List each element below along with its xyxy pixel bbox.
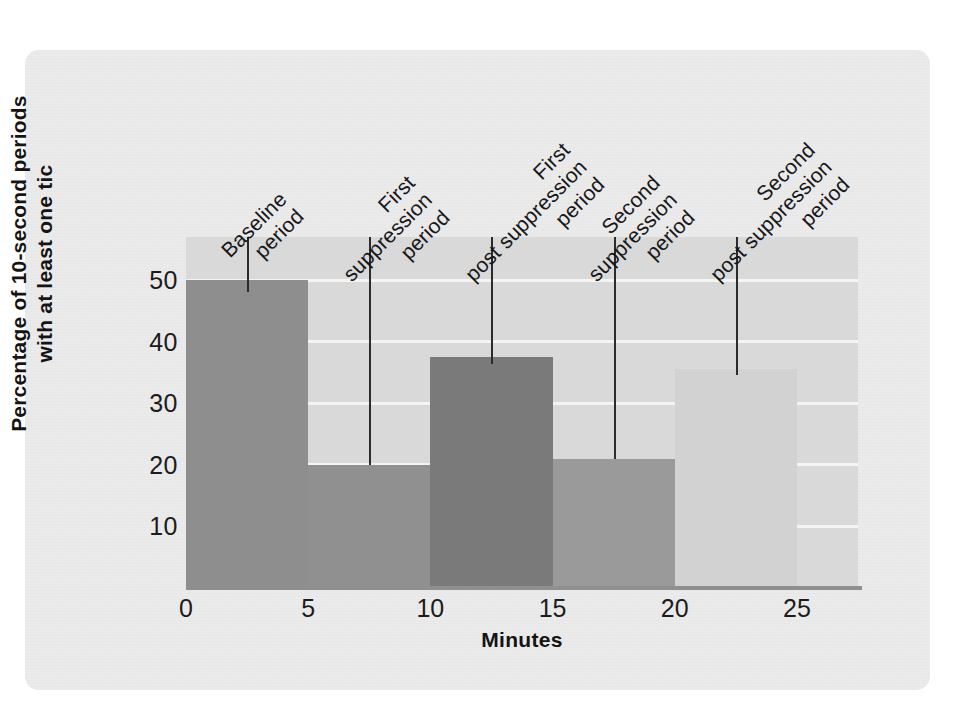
y-tick-label-30: 30 (132, 389, 178, 418)
x-axis-title: Minutes (186, 628, 858, 652)
y-tick-label-50: 50 (132, 266, 178, 295)
y-tick-label-10: 10 (132, 512, 178, 541)
x-tick-label-15: 15 (518, 594, 588, 623)
x-axis-line (186, 586, 862, 590)
y-axis-title-line-2: with at least one tic (32, 74, 58, 454)
x-tick-label-0: 0 (151, 594, 221, 623)
y-tick-label-40: 40 (132, 327, 178, 356)
y-axis-title: Percentage of 10-second periods with at … (6, 74, 57, 454)
bar-2 (430, 357, 552, 588)
y-axis-tick-labels: 1020304050 (118, 237, 178, 588)
bar-4 (675, 369, 797, 588)
bar-1 (308, 465, 430, 588)
x-tick-label-5: 5 (273, 594, 343, 623)
x-tick-label-10: 10 (395, 594, 465, 623)
y-tick-label-20: 20 (132, 450, 178, 479)
x-tick-label-25: 25 (762, 594, 832, 623)
bar-0 (186, 280, 308, 588)
plot-area (186, 237, 858, 588)
y-axis-title-line-1: Percentage of 10-second periods (6, 74, 32, 454)
bar-3 (553, 459, 675, 588)
x-tick-label-20: 20 (640, 594, 710, 623)
